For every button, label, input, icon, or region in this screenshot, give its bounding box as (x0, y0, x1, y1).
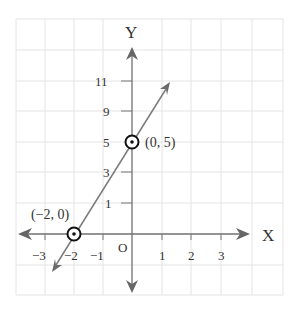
y-tick-label: 11 (95, 74, 108, 89)
y-axis (121, 47, 138, 293)
coordinate-plane: Y X O (0, 5) (−2, 0) −3 −2 −1 1 2 3 11 9… (0, 0, 297, 311)
y-tick-label: 3 (103, 165, 110, 180)
y-tick-label: 9 (103, 104, 110, 119)
point-b (126, 136, 139, 149)
point-a (68, 228, 81, 241)
x-tick-label: 3 (218, 248, 225, 263)
grid (16, 19, 283, 295)
x-tick-label: −3 (32, 248, 46, 263)
x-tick-label: 2 (188, 248, 195, 263)
y-tick-label: 1 (105, 196, 112, 211)
x-axis (18, 228, 250, 240)
line-lower-arrow-icon (52, 259, 62, 272)
x-tick-label: −2 (64, 248, 78, 263)
y-tick-label: 5 (103, 135, 110, 150)
x-axis-label: X (262, 226, 274, 245)
x-tick-label: −1 (90, 248, 104, 263)
x-tick-label: 1 (159, 248, 166, 263)
y-axis-label: Y (125, 23, 137, 42)
point-b-label: (0, 5) (145, 135, 176, 151)
origin-label: O (118, 240, 127, 255)
point-a-label: (−2, 0) (31, 207, 70, 223)
